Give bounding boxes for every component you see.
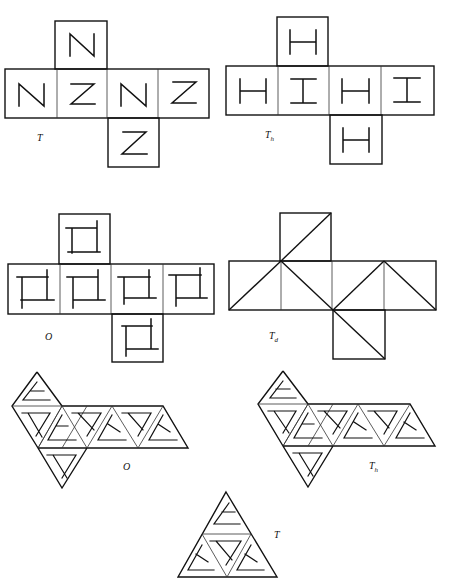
- tetrahedron-net-t: [178, 492, 277, 577]
- label-cube-td: Td: [269, 330, 278, 344]
- octahedron-net-o: [12, 372, 188, 488]
- label-cube-th: Th: [265, 129, 274, 143]
- cube-net-th: [226, 17, 434, 164]
- label-octahedron-th: Th: [369, 460, 378, 474]
- label-cube-o: O: [45, 331, 52, 342]
- cube-net-t: [5, 21, 209, 167]
- symmetry-nets-figure: [0, 0, 450, 585]
- octahedron-net-th: [258, 371, 435, 487]
- label-cube-t: T: [37, 132, 43, 143]
- cube-net-td: [229, 213, 436, 359]
- label-octahedron-o: O: [123, 461, 130, 472]
- label-tetrahedron-t: T: [274, 529, 280, 540]
- cube-net-o: [8, 214, 214, 362]
